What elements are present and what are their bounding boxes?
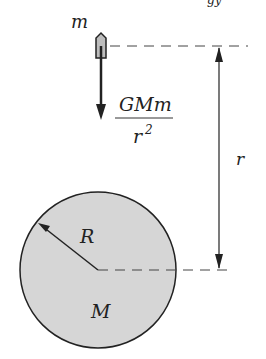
dimension-arrow-up-icon — [215, 47, 223, 62]
distance-label: r — [236, 149, 245, 169]
radius-label: R — [79, 225, 94, 247]
force-denominator-base: r — [133, 125, 144, 147]
force-denominator-exponent: 2 — [144, 123, 153, 137]
small-mass-label: m — [71, 11, 88, 32]
large-mass-label: M — [90, 300, 111, 322]
force-numerator: GMm — [119, 93, 172, 115]
force-arrowhead-icon — [96, 104, 106, 120]
dimension-arrow-down-icon — [215, 254, 223, 269]
gravity-diagram: gy GMm r 2 m r R M — [0, 0, 266, 359]
title-fragment: gy — [207, 0, 222, 7]
